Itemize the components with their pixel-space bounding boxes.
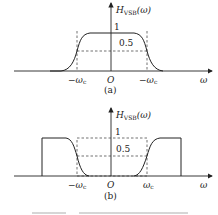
level-1-label: 1 <box>114 22 120 32</box>
tick-left-label: −ωc <box>68 180 87 190</box>
origin-label: O <box>107 75 115 85</box>
level-half-label: 0.5 <box>116 144 131 154</box>
level-1-label: 1 <box>115 127 121 137</box>
vsb-response-curve <box>50 33 163 71</box>
caption-text-fragment <box>32 212 188 214</box>
level-half-label: 0.5 <box>119 38 134 48</box>
x-axis-label: ω <box>200 180 208 190</box>
vsb-filter-figure: HVSB(ω) 1 0.5 −ωc O −ωc ω (a) HVSB(ω) 1 … <box>0 0 218 215</box>
panel-a-caption: (a) <box>104 85 116 95</box>
right-response-curve <box>134 138 181 176</box>
origin-label: O <box>107 180 115 190</box>
panel-b: HVSB(ω) 1 0.5 −ωc O ωc ω (b) <box>14 108 212 201</box>
tick-right-label: −ωc <box>139 75 158 85</box>
x-axis-label: ω <box>200 75 208 85</box>
y-axis-label: HVSB(ω) <box>115 5 152 16</box>
left-response-curve <box>42 138 89 176</box>
tick-right-label: ωc <box>143 180 154 190</box>
panel-a: HVSB(ω) 1 0.5 −ωc O −ωc ω (a) <box>14 3 212 95</box>
tick-left-label: −ωc <box>68 75 87 85</box>
y-axis-label: HVSB(ω) <box>115 110 152 121</box>
figure-caption-clipped <box>32 208 188 215</box>
dashed-box <box>77 138 147 176</box>
panel-b-caption: (b) <box>104 191 117 201</box>
